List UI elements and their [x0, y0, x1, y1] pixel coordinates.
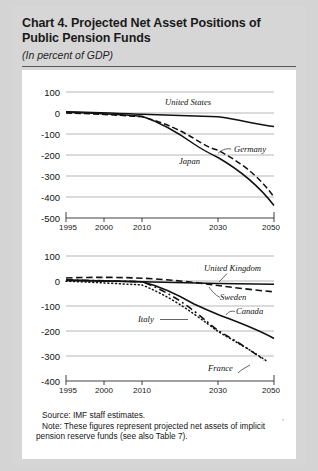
- x-tick-label: 2030: [209, 386, 227, 395]
- x-tick-label: 2030: [209, 223, 227, 232]
- leader-sweden: [209, 287, 220, 298]
- figure-card: Chart 4. Projected Net Asset Positions o…: [12, 6, 306, 465]
- bottom-x-tick-labels: 1995 2000 2010 2030 2050: [59, 386, 280, 395]
- chart-bottom-svg: 100 0 -100 -200 -300 -400 1995 2000 2010…: [22, 242, 296, 402]
- bottom-y-tick-labels: 100 0 -100 -200 -300 -400: [41, 251, 60, 387]
- bottom-axes: [66, 375, 274, 385]
- y-tick-label: -400: [41, 192, 60, 203]
- x-tick-label: 2000: [95, 386, 113, 395]
- leader-france: [238, 365, 250, 373]
- series-line-japan: [66, 112, 274, 205]
- x-tick-label: 1995: [59, 223, 77, 232]
- y-tick-label: -300: [41, 351, 60, 362]
- y-tick-label: -100: [41, 129, 60, 140]
- figure-notes: Source: IMF staff estimates. Note: These…: [36, 410, 288, 442]
- leader-germany: [218, 149, 231, 154]
- charts-panel: 100 0 -100 -200 -300 -400 -500 1995 2000…: [22, 70, 296, 459]
- series-label-canada: Canada: [236, 306, 263, 316]
- y-tick-label: -400: [41, 376, 60, 387]
- top-y-tick-labels: 100 0 -100 -200 -300 -400 -500: [41, 87, 60, 224]
- y-tick-label: -100: [41, 301, 60, 312]
- explanatory-note-line1: Note: These figures represent projected …: [36, 421, 288, 432]
- series-label-sweden: Sweden: [220, 292, 246, 302]
- figure-header: Chart 4. Projected Net Asset Positions o…: [12, 6, 306, 68]
- y-tick-label: -200: [41, 326, 60, 337]
- x-tick-label: 2000: [95, 223, 113, 232]
- y-tick-label: -200: [41, 150, 60, 161]
- x-tick-label: 2010: [133, 223, 151, 232]
- explanatory-note-line2: pension reserve funds (see also Table 7)…: [36, 431, 288, 442]
- y-tick-label: -300: [41, 171, 60, 182]
- y-tick-label: 0: [55, 108, 60, 119]
- chart-title-line2: Public Pension Funds: [22, 31, 151, 45]
- title-divider: [22, 66, 296, 67]
- figure-page: Chart 4. Projected Net Asset Positions o…: [0, 0, 318, 471]
- top-axes: [66, 212, 274, 222]
- chart-top-panel: 100 0 -100 -200 -300 -400 -500 1995 2000…: [22, 78, 296, 238]
- chart-top-svg: 100 0 -100 -200 -300 -400 -500 1995 2000…: [22, 78, 296, 238]
- chart-bottom-panel: 100 0 -100 -200 -300 -400 1995 2000 2010…: [22, 242, 296, 402]
- y-tick-label: 100: [44, 251, 60, 262]
- top-series-lines: [66, 112, 274, 206]
- series-label-germany: Germany: [234, 144, 266, 154]
- chart-subtitle: (In percent of GDP): [22, 49, 296, 61]
- series-label-japan: Japan: [179, 156, 200, 166]
- chart-title-line1: Chart 4. Projected Net Asset Positions o…: [22, 16, 261, 30]
- x-tick-label: 2010: [133, 386, 151, 395]
- series-label-united-states: United States: [165, 97, 212, 107]
- source-note: Source: IMF staff estimates.: [36, 410, 288, 421]
- y-tick-label: 0: [55, 276, 60, 287]
- x-tick-label: 1995: [59, 386, 77, 395]
- y-tick-label: -500: [41, 213, 60, 224]
- series-label-france: France: [207, 363, 233, 373]
- series-label-italy: Italy: [137, 314, 154, 324]
- top-x-tick-labels: 1995 2000 2010 2030 2050: [59, 223, 280, 232]
- x-tick-label: 2050: [262, 386, 280, 395]
- bottom-annotations: United Kingdom Sweden Canada Italy Franc…: [137, 263, 263, 373]
- leader-canada: [226, 311, 235, 315]
- y-tick-label: 100: [44, 87, 60, 98]
- page-title: Chart 4. Projected Net Asset Positions o…: [22, 16, 296, 46]
- series-label-united-kingdom: United Kingdom: [204, 263, 261, 273]
- x-tick-label: 2050: [262, 223, 280, 232]
